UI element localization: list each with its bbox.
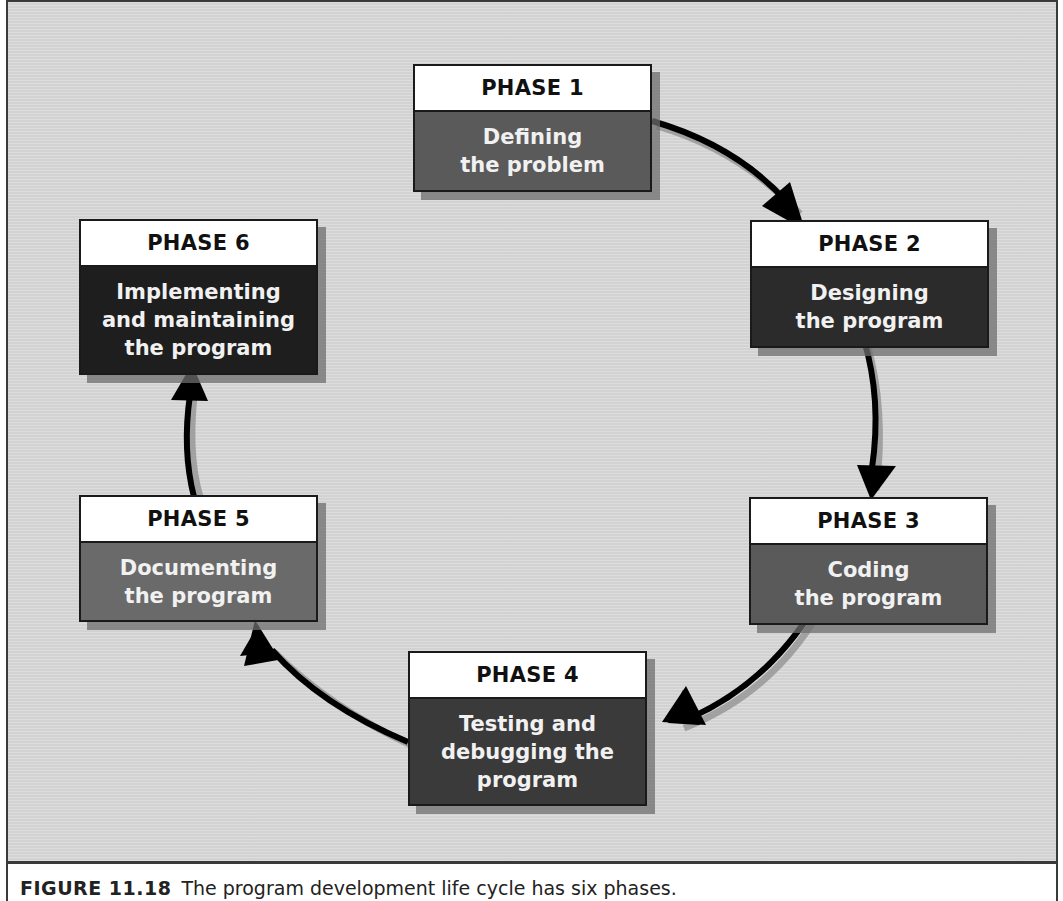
phase-1-box: PHASE 1 Defining the problem	[413, 64, 652, 192]
figure-caption: FIGURE 11.18The program development life…	[20, 877, 677, 899]
phase-5-line-2: the program	[125, 582, 273, 610]
arrow-phase5-to-phase6	[171, 364, 208, 497]
phase-2-label: PHASE 2	[752, 222, 987, 268]
phase-1-label: PHASE 1	[415, 66, 650, 112]
phase-3-line-2: the program	[795, 584, 943, 612]
figure-label: FIGURE 11.18	[20, 877, 171, 899]
arrow-phase1-to-phase2	[652, 121, 805, 230]
phase-5-description: Documenting the program	[81, 543, 316, 620]
phase-3-line-1: Coding	[827, 556, 909, 584]
arrow-phase4-to-phase5	[240, 620, 408, 742]
phase-1-line-2: the problem	[460, 151, 605, 179]
phase-1-description: Defining the problem	[415, 112, 650, 190]
phase-6-label: PHASE 6	[81, 221, 316, 267]
phase-6-description: Implementing and maintaining the program	[81, 267, 316, 373]
phase-5-box: PHASE 5 Documenting the program	[79, 495, 318, 622]
phase-4-label: PHASE 4	[410, 653, 645, 699]
phase-4-description: Testing and debugging the program	[410, 699, 645, 804]
phase-6-box: PHASE 6 Implementing and maintaining the…	[79, 219, 318, 375]
phase-1-line-1: Defining	[483, 123, 582, 151]
phase-4-box: PHASE 4 Testing and debugging the progra…	[408, 651, 647, 806]
phase-6-line-1: Implementing	[116, 278, 280, 306]
phase-6-line-3: the program	[125, 334, 273, 362]
phase-3-description: Coding the program	[751, 545, 986, 623]
phase-5-line-1: Documenting	[120, 554, 278, 582]
phase-4-line-2: debugging the	[441, 738, 614, 766]
phase-5-label: PHASE 5	[81, 497, 316, 543]
phase-2-line-2: the program	[796, 307, 944, 335]
phase-2-description: Designing the program	[752, 268, 987, 346]
phase-3-label: PHASE 3	[751, 499, 986, 545]
phase-4-line-1: Testing and	[459, 710, 596, 738]
arrow-phase2-to-phase3	[857, 340, 896, 500]
phase-6-line-2: and maintaining	[102, 306, 295, 334]
caption-text: The program development life cycle has s…	[181, 877, 676, 899]
phase-2-box: PHASE 2 Designing the program	[750, 220, 989, 348]
phase-3-box: PHASE 3 Coding the program	[749, 497, 988, 625]
phase-2-line-1: Designing	[810, 279, 929, 307]
phase-4-line-3: program	[477, 766, 578, 794]
